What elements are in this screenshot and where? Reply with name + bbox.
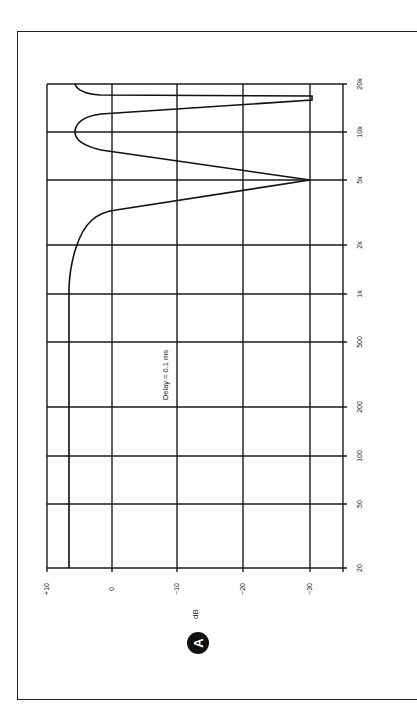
db-grid-lines [47, 84, 343, 572]
badge-letter: A [191, 638, 206, 648]
freq-tick-label: 50 [356, 500, 363, 508]
freq-tick-label: 500 [356, 336, 363, 348]
freq-tick-label: 1k [356, 290, 363, 298]
freq-tick-label: 100 [356, 450, 363, 462]
db-tick-label: 0 [108, 587, 115, 591]
freq-tick-label: 20k [356, 78, 363, 90]
freq-tick-label: 20 [356, 564, 363, 572]
freq-tick-label: 10k [356, 126, 363, 138]
db-tick-label: −10 [173, 583, 180, 595]
db-axis-title: dB [191, 609, 200, 619]
frequency-grid-lines [47, 84, 347, 568]
db-tick-label: −30 [306, 583, 313, 595]
freq-tick-label: 2k [356, 241, 363, 249]
db-tick-labels: +10 0 −10 −20 −30 [43, 583, 313, 595]
response-curve [69, 84, 312, 568]
freq-tick-label: 200 [356, 401, 363, 413]
db-tick-label: −20 [239, 583, 246, 595]
delay-annotation: Delay = 0.1 ms [161, 350, 170, 400]
db-tick-label: +10 [43, 583, 50, 595]
frequency-tick-labels: 20 50 100 200 500 1k 2k 5k 10k 20k [356, 78, 363, 572]
figure-badge: A [187, 632, 209, 654]
freq-tick-label: 5k [356, 176, 363, 184]
